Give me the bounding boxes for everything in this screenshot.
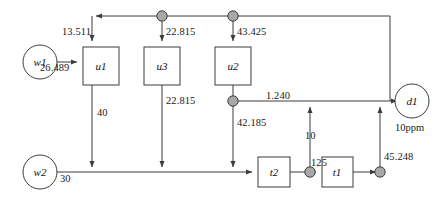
flow-label-t1out-to-d1: 45.248 xyxy=(384,152,413,163)
treatment-label-t2: t2 xyxy=(264,167,284,178)
flow-label-w2-to-main: 30 xyxy=(60,174,71,185)
unit-label-u2: u2 xyxy=(223,61,243,72)
sink-label-d1: d1 xyxy=(402,96,422,107)
treatment-label-t1: t1 xyxy=(327,167,347,178)
split-node-u2-outlet xyxy=(228,96,238,106)
flow-label-t1node-up: 10 xyxy=(305,131,316,142)
flow-label-t2-to-t1: 125 xyxy=(311,158,327,169)
split-node-top-u2 xyxy=(228,11,238,21)
source-label-w2: w2 xyxy=(30,167,50,178)
flow-label-u2split-down: 42.185 xyxy=(237,118,266,129)
diagram-canvas: w1 w2 u1 u3 u2 t2 t1 d1 10ppm 13.511 22.… xyxy=(0,0,440,197)
unit-label-u1: u1 xyxy=(91,61,111,72)
sink-spec-d1: 10ppm xyxy=(395,123,424,134)
flow-label-u3-to-main: 22.815 xyxy=(166,96,195,107)
split-node-top-u3 xyxy=(157,11,167,21)
flow-label-u1-to-main: 40 xyxy=(97,108,108,119)
flow-label-split-to-u2: 43.425 xyxy=(237,27,266,38)
flow-label-w1-to-u1: 26.489 xyxy=(40,63,69,74)
flow-label-u2split-right: 1.240 xyxy=(266,91,290,102)
flow-label-recycle-to-u1: 13.511 xyxy=(62,27,91,38)
mix-node-t1-out xyxy=(375,167,385,177)
flow-label-split-to-u3: 22.815 xyxy=(166,27,195,38)
unit-label-u3: u3 xyxy=(152,61,172,72)
